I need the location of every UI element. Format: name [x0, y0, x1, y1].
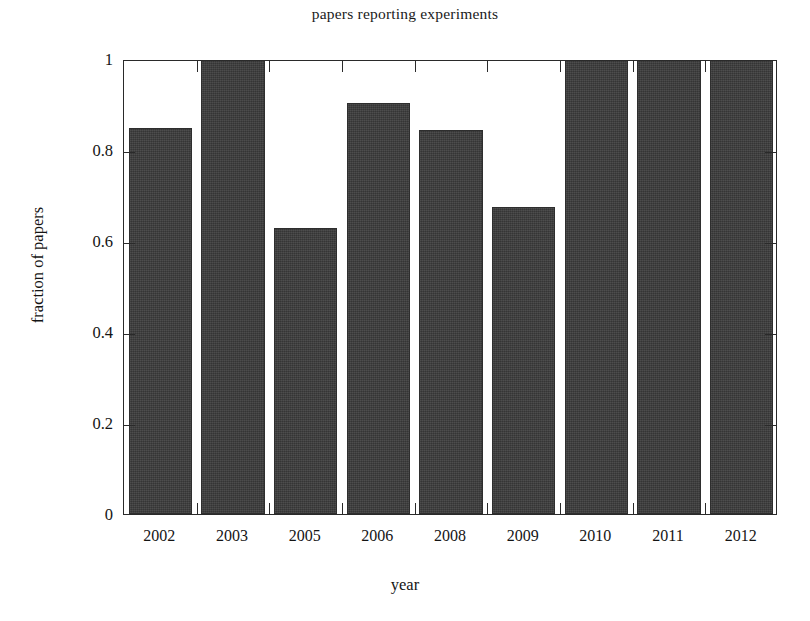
- y-tick-label-0.8: 0.8: [53, 141, 113, 161]
- x-tick-label-2002: 2002: [143, 527, 175, 545]
- x-tick-bottom-7: [633, 503, 634, 514]
- bar-2010: [565, 60, 629, 514]
- y-tick-left-0.8: [124, 152, 135, 153]
- x-tick-top-5: [487, 61, 488, 72]
- x-tick-top-3: [342, 61, 343, 72]
- y-tick-left-0.6: [124, 243, 135, 244]
- bar-2005: [274, 228, 338, 514]
- bar-2009: [492, 207, 556, 514]
- bar-chart-figure: papers reporting experiments 00.20.40.60…: [0, 0, 810, 621]
- y-tick-label-0.6: 0.6: [53, 232, 113, 252]
- x-tick-top-7: [633, 61, 634, 72]
- y-tick-label-0: 0: [53, 505, 113, 525]
- x-tick-label-2009: 2009: [507, 527, 539, 545]
- y-tick-right-0.8: [765, 152, 776, 153]
- y-axis-label: fraction of papers: [28, 155, 48, 375]
- x-tick-top-2: [269, 61, 270, 72]
- chart-title: papers reporting experiments: [0, 5, 810, 23]
- x-tick-label-2005: 2005: [289, 527, 321, 545]
- x-tick-top-6: [560, 61, 561, 72]
- bars-layer: [124, 61, 776, 514]
- x-tick-label-2011: 2011: [652, 527, 683, 545]
- x-tick-top-1: [197, 61, 198, 72]
- y-tick-right-0.2: [765, 425, 776, 426]
- y-tick-label-0.4: 0.4: [53, 323, 113, 343]
- x-tick-bottom-2: [269, 503, 270, 514]
- x-tick-bottom-1: [197, 503, 198, 514]
- bar-2002: [129, 128, 193, 514]
- x-tick-label-2006: 2006: [361, 527, 393, 545]
- y-tick-left-0.2: [124, 425, 135, 426]
- y-tick-label-1: 1: [53, 50, 113, 70]
- y-tick-right-0.6: [765, 243, 776, 244]
- x-axis-tick-labels: 200220032005200620082009201020112012: [123, 527, 777, 553]
- x-tick-top-8: [705, 61, 706, 72]
- bar-2012: [710, 60, 774, 514]
- x-axis-label: year: [0, 575, 810, 595]
- bar-2008: [419, 130, 483, 514]
- plot-area: [123, 60, 777, 515]
- y-axis-tick-labels: 00.20.40.60.81: [45, 60, 113, 515]
- x-tick-bottom-3: [342, 503, 343, 514]
- bar-2006: [347, 103, 411, 515]
- y-tick-right-0.4: [765, 334, 776, 335]
- x-tick-top-4: [415, 61, 416, 72]
- x-tick-label-2012: 2012: [725, 527, 757, 545]
- y-tick-label-0.2: 0.2: [53, 414, 113, 434]
- x-tick-bottom-5: [487, 503, 488, 514]
- x-tick-label-2008: 2008: [434, 527, 466, 545]
- x-tick-bottom-8: [705, 503, 706, 514]
- x-tick-bottom-6: [560, 503, 561, 514]
- bar-2003: [201, 60, 265, 514]
- bar-2011: [637, 60, 701, 514]
- x-tick-label-2010: 2010: [579, 527, 611, 545]
- x-tick-label-2003: 2003: [216, 527, 248, 545]
- x-tick-bottom-4: [415, 503, 416, 514]
- y-tick-left-0.4: [124, 334, 135, 335]
